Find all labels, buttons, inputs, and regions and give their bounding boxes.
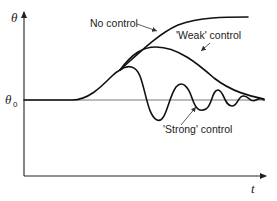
curve-common-rise	[24, 70, 120, 100]
baseline-label: θ	[5, 92, 12, 107]
label-no-control: No control	[90, 17, 138, 29]
curve-weak-control	[120, 47, 264, 99]
pointer-weak-control	[201, 43, 210, 51]
control-response-diagram: θ t θ 0 No control 'Weak' control 'Stron…	[0, 0, 277, 201]
label-weak-control: 'Weak' control	[176, 29, 241, 41]
x-axis-label: t	[251, 181, 255, 196]
pointer-no-control	[137, 24, 157, 31]
label-strong-control: 'Strong' control	[163, 123, 232, 135]
baseline-label-subscript: 0	[13, 100, 18, 109]
y-axis-label: θ	[11, 10, 18, 25]
